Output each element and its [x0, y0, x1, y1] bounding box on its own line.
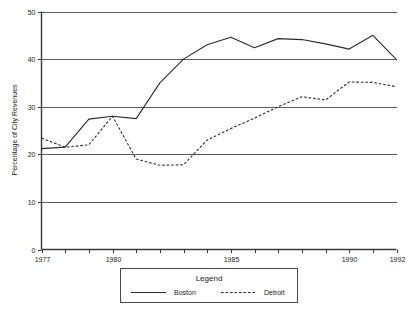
series-group [42, 35, 397, 165]
y-tick-label-50: 50 [28, 9, 36, 16]
legend-label-detroit: Detroit [264, 289, 285, 296]
series-line-boston [42, 35, 397, 148]
x-tick-label-1980: 1980 [106, 256, 122, 263]
y-tick-label-10: 10 [28, 199, 36, 206]
y-tick-label-40: 40 [28, 56, 36, 63]
y-tick-label-0: 0 [32, 247, 36, 254]
legend-label-boston: Boston [174, 289, 196, 296]
line-chart: 01020304050 19771980198519901992 Percent… [0, 0, 413, 315]
x-tick-group: 19771980198519901992 [35, 250, 406, 263]
x-tick-label-1985: 1985 [224, 256, 240, 263]
x-tick-label-1977: 1977 [35, 256, 51, 263]
y-tick-label-30: 30 [28, 104, 36, 111]
x-tick-label-1992: 1992 [390, 256, 406, 263]
chart-figure: 01020304050 19771980198519901992 Percent… [0, 0, 413, 315]
series-line-detroit [42, 82, 397, 165]
x-tick-label-1990: 1990 [342, 256, 358, 263]
y-axis-title: Percentage of City Revenues [11, 84, 19, 176]
y-tick-group: 01020304050 [28, 9, 42, 254]
y-tick-label-20: 20 [28, 151, 36, 158]
legend-title: Legend [196, 274, 223, 283]
